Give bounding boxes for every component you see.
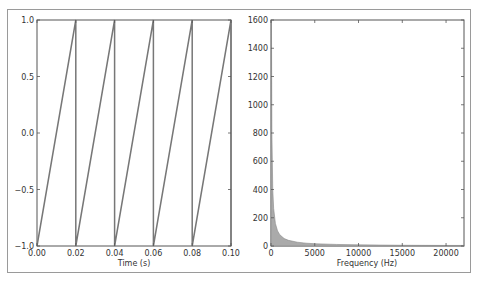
right-x-axis-label: Frequency (Hz) bbox=[337, 259, 397, 268]
right-chart: 02004006008001000120014001600 0500010000… bbox=[248, 16, 464, 268]
left-x-axis-label: Time (s) bbox=[117, 259, 151, 268]
right-y-tick-label: 200 bbox=[253, 214, 268, 223]
left-x-tick-label: 0.02 bbox=[67, 249, 85, 258]
figure-canvas: −1.0−0.50.00.51.0 0.000.020.040.060.080.… bbox=[0, 0, 478, 282]
left-y-tick-label: 0.5 bbox=[21, 73, 34, 82]
left-x-tick-label: 0.08 bbox=[183, 249, 201, 258]
right-plot-area bbox=[271, 20, 464, 246]
right-x-tick-label: 15000 bbox=[390, 249, 415, 258]
left-x-tick-label: 0.10 bbox=[222, 249, 240, 258]
left-chart: −1.0−0.50.00.51.0 0.000.020.040.060.080.… bbox=[15, 16, 240, 268]
left-y-tick-label: −0.5 bbox=[15, 186, 34, 195]
left-x-tick-label: 0.04 bbox=[106, 249, 124, 258]
right-x-tick-label: 0 bbox=[268, 249, 273, 258]
right-x-tick-label: 20000 bbox=[433, 249, 458, 258]
right-y-tick-label: 0 bbox=[263, 242, 268, 251]
right-x-tick-label: 5000 bbox=[305, 249, 325, 258]
right-y-tick-label: 800 bbox=[253, 129, 268, 138]
left-x-tick-label: 0.00 bbox=[28, 249, 46, 258]
right-x-tick-label: 10000 bbox=[346, 249, 371, 258]
left-y-tick-label: 1.0 bbox=[21, 16, 34, 25]
right-y-tick-label: 600 bbox=[253, 157, 268, 166]
right-y-tick-label: 1200 bbox=[248, 73, 268, 82]
right-y-tick-label: 1400 bbox=[248, 44, 268, 53]
left-y-tick-label: 0.0 bbox=[21, 129, 34, 138]
right-y-tick-label: 1000 bbox=[248, 101, 268, 110]
left-x-tick-label: 0.06 bbox=[144, 249, 162, 258]
right-y-tick-label: 1600 bbox=[248, 16, 268, 25]
right-y-tick-label: 400 bbox=[253, 186, 268, 195]
